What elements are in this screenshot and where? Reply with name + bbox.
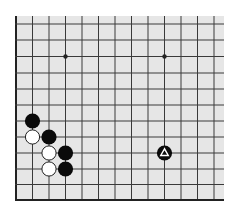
black-stone <box>58 145 73 160</box>
white-stone <box>42 146 56 160</box>
white-stone <box>25 130 39 144</box>
star-point <box>63 54 67 58</box>
black-stone <box>58 161 73 176</box>
black-stone <box>41 129 56 144</box>
star-point <box>162 54 166 58</box>
go-board <box>0 0 240 212</box>
black-stone <box>157 145 172 160</box>
white-stone <box>42 162 56 176</box>
black-stone <box>25 113 40 128</box>
